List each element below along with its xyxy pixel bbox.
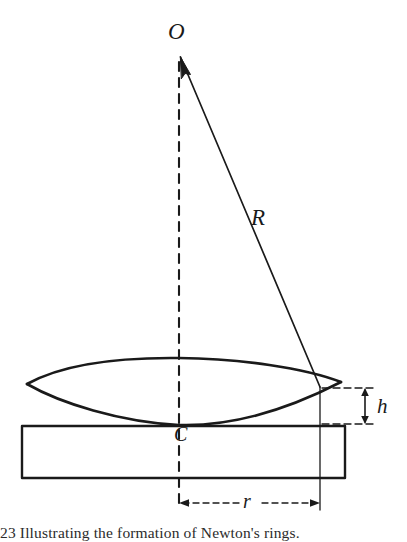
label-ring-radius-r: r — [243, 491, 251, 511]
label-center-of-curvature-o: O — [168, 20, 185, 43]
figure-drawing — [0, 0, 407, 542]
label-gap-height-h: h — [377, 396, 388, 417]
lens-upper-surface — [27, 358, 341, 384]
lens-lower-surface — [27, 382, 341, 425]
label-radius-r: R — [251, 206, 265, 229]
label-contact-point-c: C — [174, 424, 187, 444]
ring-radius-arrowhead-left — [179, 499, 189, 507]
figure-caption: 23 Illustrating the formation of Newton'… — [0, 524, 407, 542]
ring-radius-arrowhead-right — [310, 499, 320, 507]
gap-dimension-arrowhead-bottom — [361, 416, 369, 424]
gap-dimension-arrowhead-top — [361, 388, 369, 396]
newtons-rings-figure: O R C h r 23 Illustrating the formation … — [0, 0, 407, 542]
